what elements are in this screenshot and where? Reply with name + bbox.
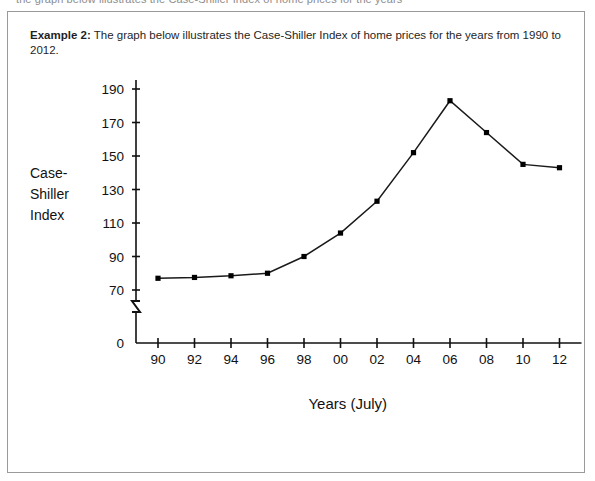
cut-off-header-label: the graph below illustrates the Case-Shi… [16,0,402,5]
caption: Example 2: The graph below illustrates t… [30,28,570,58]
caption-text: The graph below illustrates the Case-Shi… [30,29,561,56]
example-box: Example 2: The graph below illustrates t… [7,11,585,473]
caption-label: Example 2: [30,29,91,41]
cut-off-header-text: the graph below illustrates the Case-Shi… [0,0,595,11]
